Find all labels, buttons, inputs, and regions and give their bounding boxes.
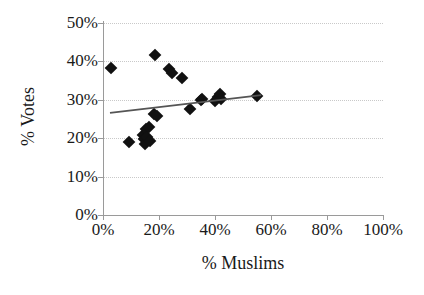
y-tick-label-30: 30% xyxy=(28,91,98,108)
data-point xyxy=(149,49,162,62)
y-tick-label-10: 10% xyxy=(28,168,98,185)
data-point xyxy=(123,135,136,148)
y-tick-0 xyxy=(98,215,103,216)
y-axis-title: % Votes xyxy=(18,62,39,172)
y-tick-label-50: 50% xyxy=(28,14,98,31)
data-point xyxy=(184,103,197,116)
x-tick-label-100: 100% xyxy=(348,221,418,238)
y-tick-label-40: 40% xyxy=(28,52,98,69)
plot-area xyxy=(103,23,383,215)
scatter-chart-figure: 0%10%20%30%40%50% 0%20%40%60%80%100% % M… xyxy=(0,0,424,295)
data-point xyxy=(105,62,118,75)
x-axis-line xyxy=(103,215,384,216)
y-tick-label-20: 20% xyxy=(28,129,98,146)
x-axis-title: % Muslims xyxy=(103,253,383,274)
data-point xyxy=(251,90,264,103)
